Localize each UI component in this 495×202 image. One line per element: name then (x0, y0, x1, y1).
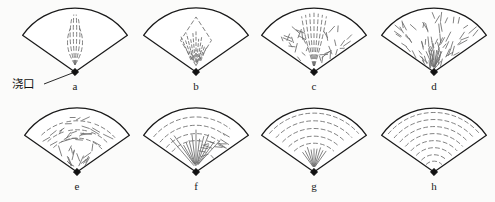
sector-label-d: d (431, 80, 437, 92)
sector-label-a: a (73, 80, 78, 92)
sector-label-e: e (75, 180, 80, 192)
sector-b: b (144, 8, 249, 92)
sector-label-f: f (194, 180, 198, 192)
flow-pattern-diagram: abcdefgh 浇口 (0, 0, 495, 202)
figure-container: abcdefgh 浇口 (0, 0, 495, 202)
sector-g: g (262, 108, 367, 192)
sector-a: a (23, 8, 128, 92)
sector-outline-h (382, 108, 487, 172)
sector-label-b: b (193, 80, 199, 92)
sector-f: f (144, 108, 249, 192)
sectors-layer: abcdefgh (23, 8, 487, 192)
sector-label-h: h (431, 180, 437, 192)
gate-label: 浇口 (12, 77, 34, 91)
sector-c: c (262, 8, 367, 92)
sector-h: h (382, 108, 487, 192)
sector-e: e (25, 108, 130, 192)
sector-d: d (382, 8, 487, 92)
gate-callout: 浇口 (12, 72, 75, 91)
sector-label-g: g (311, 180, 317, 192)
sector-label-c: c (312, 80, 317, 92)
gate-leader-line (44, 72, 75, 84)
